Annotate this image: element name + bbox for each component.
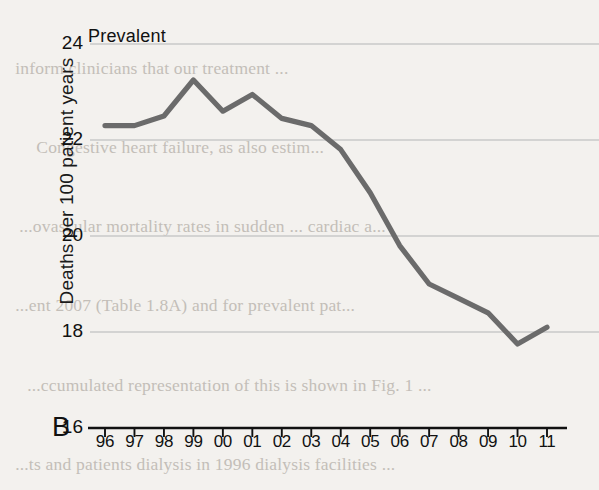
x-tick-label: 00 — [208, 432, 238, 452]
series-label-prevalent: Prevalent — [88, 26, 166, 47]
x-tick-label: 05 — [355, 432, 385, 452]
x-tick-label: 97 — [119, 432, 149, 452]
x-tick-label: 10 — [503, 432, 533, 452]
x-tick-label: 96 — [90, 432, 120, 452]
y-tick-label: 24 — [43, 32, 83, 54]
x-tick-label: 11 — [532, 432, 562, 452]
x-tick-label: 98 — [149, 432, 179, 452]
y-tick-label: 22 — [43, 128, 83, 150]
x-tick-label: 09 — [473, 432, 503, 452]
x-tick-label: 08 — [444, 432, 474, 452]
data-series-prevalent — [105, 80, 547, 344]
x-tick-label: 04 — [326, 432, 356, 452]
y-tick-label: 20 — [43, 224, 83, 246]
y-axis-label: Deaths per 100 patient years — [56, 56, 78, 306]
x-tick-label: 07 — [414, 432, 444, 452]
x-tick-label: 03 — [296, 432, 326, 452]
y-tick-label: 18 — [43, 320, 83, 342]
gridlines — [90, 44, 599, 332]
chart-canvas — [0, 0, 599, 490]
x-tick-label: 99 — [178, 432, 208, 452]
y-tick-label: 16 — [43, 416, 83, 438]
x-tick-label: 06 — [385, 432, 415, 452]
x-tick-label: 01 — [237, 432, 267, 452]
x-tick-label: 02 — [267, 432, 297, 452]
scanned-figure-page: inform clinicians that our treatment ...… — [0, 0, 599, 490]
line-chart: Deaths per 100 patient years Prevalent B… — [0, 0, 599, 490]
